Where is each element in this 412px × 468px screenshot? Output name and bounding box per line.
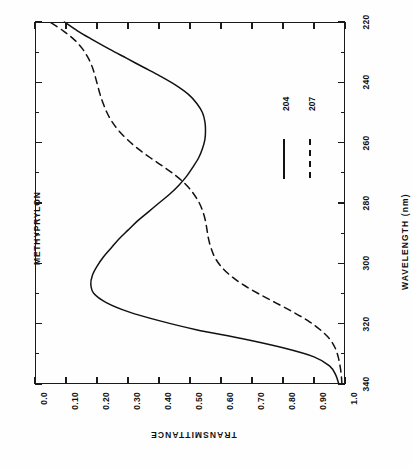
- tick-label-wavelength: 260: [361, 135, 371, 150]
- tick-wavelength-minor: [341, 112, 345, 113]
- tick-wavelength: [338, 202, 345, 203]
- tick-wavelength-minor: [35, 172, 39, 173]
- tick-transmittance: [313, 377, 314, 384]
- tick-transmittance: [127, 377, 128, 384]
- tick-wavelength-minor: [341, 233, 345, 234]
- tick-wavelength-left: [35, 383, 42, 384]
- tick-transmittance-top: [313, 22, 314, 29]
- tick-transmittance: [158, 377, 159, 384]
- tick-transmittance: [251, 377, 252, 384]
- tick-wavelength: [338, 21, 345, 22]
- tick-wavelength-left: [35, 82, 42, 83]
- tick-transmittance-top: [282, 22, 283, 29]
- tick-transmittance: [65, 377, 66, 384]
- figure-page: 204 207 METHYPRYLON TRANSMITTANCE WAVELE…: [0, 0, 412, 468]
- tick-label-transmittance: 0.0: [39, 392, 49, 405]
- tick-label-wavelength: 240: [361, 75, 371, 90]
- tick-label-transmittance: 0.90: [318, 392, 328, 410]
- tick-wavelength-minor: [341, 52, 345, 53]
- tick-label-wavelength: 320: [361, 316, 371, 331]
- tick-wavelength-minor: [35, 293, 39, 294]
- tick-label-transmittance: 0.80: [287, 392, 297, 410]
- tick-wavelength-left: [35, 263, 42, 264]
- tick-wavelength-left: [35, 21, 42, 22]
- tick-transmittance-top: [65, 22, 66, 29]
- tick-transmittance-top: [251, 22, 252, 29]
- tick-transmittance: [96, 377, 97, 384]
- tick-wavelength: [338, 323, 345, 324]
- tick-transmittance-top: [158, 22, 159, 29]
- tick-wavelength-minor: [35, 233, 39, 234]
- tick-label-wavelength: 340: [361, 376, 371, 391]
- tick-label-transmittance: 0.20: [101, 392, 111, 410]
- tick-wavelength-minor: [341, 172, 345, 173]
- tick-wavelength-minor: [35, 52, 39, 53]
- tick-wavelength-minor: [35, 353, 39, 354]
- transmittance-axis-title: TRANSMITTANCE: [150, 430, 237, 440]
- tick-wavelength-minor: [341, 353, 345, 354]
- tick-wavelength-minor: [35, 112, 39, 113]
- tick-transmittance-top: [96, 22, 97, 29]
- tick-transmittance-top: [220, 22, 221, 29]
- tick-label-transmittance: 0.60: [225, 392, 235, 410]
- tick-label-transmittance: 0.70: [256, 392, 266, 410]
- tick-wavelength-minor: [341, 293, 345, 294]
- tick-transmittance: [282, 377, 283, 384]
- tick-label-transmittance: 0.40: [163, 392, 173, 410]
- tick-label-wavelength: 220: [361, 14, 371, 29]
- tick-transmittance-top: [127, 22, 128, 29]
- tick-wavelength: [338, 383, 345, 384]
- tick-label-transmittance: 0.10: [70, 392, 80, 410]
- tick-label-transmittance: 0.30: [132, 392, 142, 410]
- wavelength-axis-title: WAVELENGTH (nm): [400, 193, 410, 290]
- tick-label-wavelength: 300: [361, 256, 371, 271]
- tick-wavelength-left: [35, 142, 42, 143]
- tick-transmittance-top: [344, 22, 345, 29]
- tick-transmittance-top: [189, 22, 190, 29]
- tick-label-wavelength: 280: [361, 195, 371, 210]
- tick-wavelength: [338, 142, 345, 143]
- tick-transmittance: [220, 377, 221, 384]
- tick-transmittance-top: [34, 22, 35, 29]
- tick-wavelength-left: [35, 323, 42, 324]
- curve-204: [64, 22, 338, 384]
- tick-wavelength: [338, 263, 345, 264]
- tick-wavelength-left: [35, 202, 42, 203]
- tick-label-transmittance: 0.50: [194, 392, 204, 410]
- tick-wavelength: [338, 82, 345, 83]
- tick-label-transmittance: 1.0: [349, 392, 359, 405]
- tick-transmittance: [189, 377, 190, 384]
